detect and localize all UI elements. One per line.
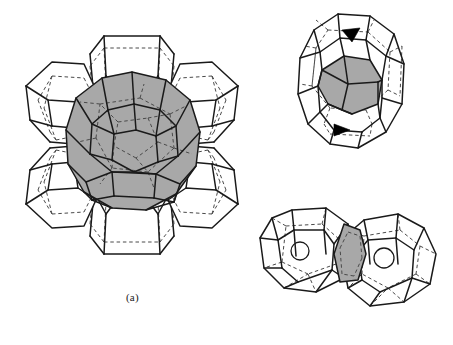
figure-caption xyxy=(0,337,453,345)
panel-a-svg xyxy=(8,14,258,276)
figure-root: (a) xyxy=(0,0,453,345)
cage-b-outer xyxy=(298,14,404,148)
panel-c-svg xyxy=(248,196,448,324)
central-shaded-cage xyxy=(66,72,200,210)
panel-b: (b) xyxy=(282,8,422,168)
panel-a: (a) xyxy=(8,14,258,276)
panel-a-label: (a) xyxy=(126,291,139,303)
panel-c: (c) xyxy=(248,196,448,324)
panel-b-svg xyxy=(282,8,422,168)
